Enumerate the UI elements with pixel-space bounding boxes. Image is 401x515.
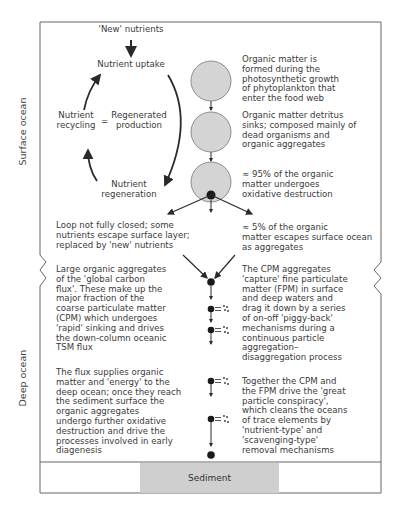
sediment-label: Sediment (188, 473, 231, 483)
sediment-layer: Sediment (140, 463, 279, 493)
note-pointer-graphics (0, 0, 401, 515)
